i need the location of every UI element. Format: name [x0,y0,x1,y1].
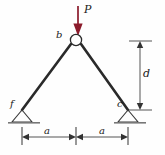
label-support-f: f [10,99,14,109]
dimension-extension-ticks [22,127,128,145]
support-c-pin [114,110,146,123]
label-dimension-d: d [143,68,150,79]
label-dimension-a-left: a [44,126,50,136]
dim-d-arrow-down [137,103,143,110]
label-load-P: P [84,4,91,15]
label-dimension-a-right: a [99,126,105,136]
dim-d-arrow-up [137,41,143,48]
truss-members [22,44,128,110]
dim-a-right-arrow-end [121,134,128,140]
label-support-c: c [117,99,123,109]
joint-b-hinge [70,34,81,45]
label-joint-b: b [56,30,62,40]
support-f-triangle [12,110,32,122]
load-arrow-P [73,6,82,36]
member-bf [22,44,71,110]
dim-a-left-arrow-end [69,134,76,140]
support-f-pin [8,110,40,123]
truss-diagram: P b d f c a a [0,0,165,155]
support-c-triangle [118,110,138,122]
dim-a-right-arrow-start [76,134,83,140]
diagram-canvas [0,0,165,155]
dim-a-left-arrow-start [22,134,29,140]
